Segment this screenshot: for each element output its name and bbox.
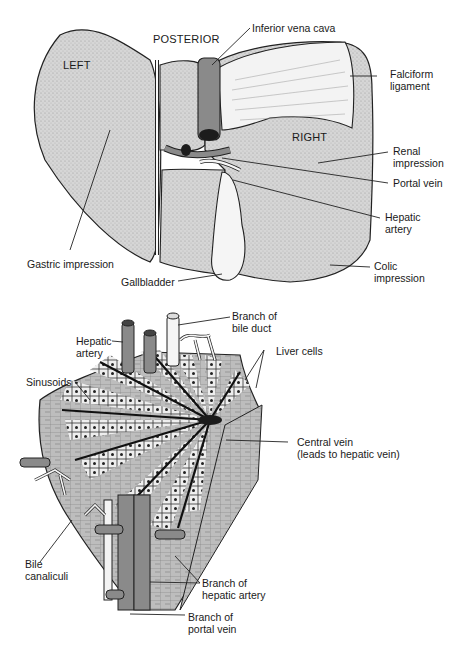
liver-illustration (0, 0, 457, 657)
gallbladder-label: Gallbladder (121, 276, 175, 288)
left-lobe-label: LEFT (63, 59, 91, 71)
left-lobe (34, 30, 160, 262)
branch-hepatic-artery-label-line2: hepatic artery (202, 589, 266, 601)
renal-impression-label-line1: Renal (393, 145, 420, 157)
posterior-label: POSTERIOR (153, 33, 220, 45)
central-vein-label-line2: (leads to hepatic vein) (297, 448, 400, 460)
central-vein-shape (198, 415, 222, 425)
inferior-vena-cava-shape (198, 58, 220, 140)
falciform-ligament-label-line1: Falciform (390, 68, 433, 80)
bile-duct-branch-label-line2: bile duct (232, 322, 271, 334)
hepatic-artery-lobule-label-line1: Hepatic (76, 335, 112, 347)
bile-duct-branch-label-line1: Branch of (232, 310, 277, 322)
hepatic-artery-label-line2: artery (385, 223, 412, 235)
right-lobe-label: RIGHT (292, 131, 327, 143)
falciform-ligament-label-line2: ligament (390, 80, 430, 92)
inferior-vena-cava-label: Inferior vena cava (252, 22, 335, 34)
branch-hepatic-artery-label-line1: Branch of (202, 577, 247, 589)
gastric-impression-label: Gastric impression (27, 258, 114, 270)
bile-canaliculi-label-line2: canaliculi (25, 570, 68, 582)
branch-portal-vein-label-line1: Branch of (188, 611, 233, 623)
colic-impression-label-line1: Colic (374, 260, 397, 272)
colic-impression-label-line2: impression (374, 272, 425, 284)
branch-portal-vein-label-line2: portal vein (188, 623, 236, 635)
renal-impression-label-line2: impression (393, 157, 444, 169)
hepatic-artery-lobule-label-line2: artery (76, 347, 103, 359)
bile-canaliculi-label-line1: Bile (25, 558, 43, 570)
hepatic-artery-label-line1: Hepatic (385, 211, 421, 223)
sinusoids-label: Sinusoids (26, 376, 72, 388)
portal-vein-label: Portal vein (393, 177, 443, 189)
central-vein-label-line1: Central vein (297, 436, 353, 448)
liver-cells-label: Liver cells (276, 345, 323, 357)
